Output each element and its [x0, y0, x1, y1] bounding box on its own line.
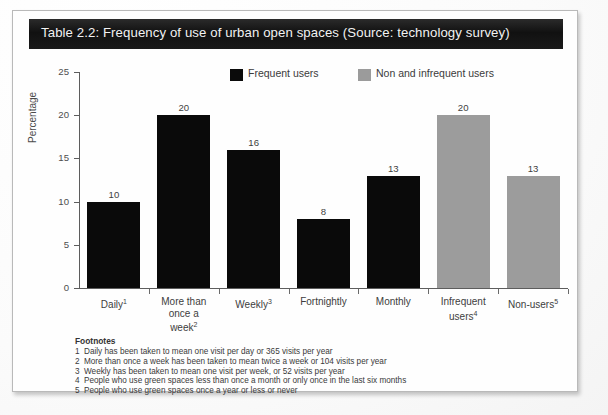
x-tick-4	[428, 289, 429, 294]
bar-value-label-1: 20	[164, 102, 204, 113]
footnotes-list: 1Daily has been taken to mean one visit …	[75, 347, 555, 396]
x-category-label-3: Fortnightly	[289, 296, 359, 308]
x-category-label-4: Monthly	[358, 296, 428, 308]
x-tick-0	[149, 289, 150, 294]
y-axis-title: Percentage	[27, 92, 38, 143]
x-category-label-1: More thanonce aweek2	[149, 296, 219, 334]
bar-value-label-3: 8	[304, 206, 344, 217]
bar-series: 1020168132013	[79, 72, 568, 288]
y-tick-0	[74, 288, 79, 289]
bar-value-label-0: 10	[94, 189, 134, 200]
bar-5	[437, 115, 490, 288]
footnotes-block: Footnotes 1Daily has been taken to mean …	[75, 336, 555, 396]
y-tick-label-0: 0	[43, 282, 69, 293]
bar-value-label-6: 13	[513, 163, 553, 174]
x-tick-5	[498, 289, 499, 294]
x-tick-6	[568, 289, 569, 294]
bar-4	[367, 176, 420, 288]
bar-value-label-4: 13	[373, 163, 413, 174]
x-category-label-6: Non-users5	[498, 296, 568, 311]
x-category-label-2: Weekly3	[219, 296, 289, 311]
y-tick-label-15: 15	[43, 152, 69, 163]
footnote-row-2: 2More than once a week has been taken to…	[75, 357, 555, 367]
x-tick-3	[358, 289, 359, 294]
footnote-row-5: 5People who use green spaces once a year…	[75, 386, 555, 396]
bar-2	[227, 150, 280, 288]
bar-value-label-2: 16	[234, 137, 274, 148]
bar-6	[507, 176, 560, 288]
bar-3	[297, 219, 350, 288]
footnotes-heading: Footnotes	[75, 336, 555, 346]
x-tick-2	[289, 289, 290, 294]
y-tick-label-25: 25	[43, 66, 69, 77]
x-axis-line	[79, 288, 568, 289]
page-background: Table 2.2: Frequency of use of urban ope…	[0, 0, 608, 415]
y-tick-label-10: 10	[43, 196, 69, 207]
x-category-label-0: Daily1	[79, 296, 149, 311]
chart-card: Table 2.2: Frequency of use of urban ope…	[12, 10, 578, 392]
bar-1	[157, 115, 210, 288]
y-tick-label-20: 20	[43, 109, 69, 120]
footnote-row-4: 4People who use green spaces less than o…	[75, 376, 555, 386]
footnote-row-1: 1Daily has been taken to mean one visit …	[75, 347, 555, 357]
footnote-row-3: 3Weekly has been taken to mean one visit…	[75, 367, 555, 377]
bar-0	[87, 202, 140, 288]
y-tick-label-5: 5	[43, 239, 69, 250]
x-tick-1	[219, 289, 220, 294]
bar-value-label-5: 20	[443, 102, 483, 113]
x-category-label-5: Infrequentusers4	[428, 296, 498, 322]
